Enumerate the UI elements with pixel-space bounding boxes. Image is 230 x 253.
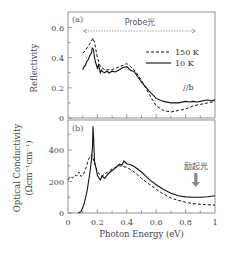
down-arrow-icon [192,173,200,187]
panel-a-ytick-0.6: 0.6 [51,24,64,33]
panel-a-ytick-0.4: 0.4 [51,54,64,63]
probe-range-arrow [84,29,196,33]
panel-b-y-ticks [68,134,72,213]
xtick-1: 1 [212,218,217,227]
excitation-label: 励起光 [184,161,208,171]
xtick-0.8: 0.8 [179,218,192,227]
legend-150k: 150 K [175,48,200,57]
panel-a-ytick-0: 0 [59,114,64,123]
polarization-label: //b [183,83,194,92]
probe-label: Probe光 [125,17,156,27]
xtick-0.2: 0.2 [91,218,104,227]
panel-b-x-ticks [83,209,201,213]
panel-a-ytick-0.2: 0.2 [51,84,64,93]
panel-a: 0 0.2 0.4 0.6 Reflectivity (a) Probe光 15… [29,12,215,123]
panel-b-ytick-400: 400 [49,146,64,155]
panel-b: 0 200 400 0 0.2 0.4 0.6 0.8 1 Photon Ene… [12,120,218,239]
panel-a-x-ticks [83,114,201,118]
xtick-0.4: 0.4 [120,218,133,227]
xtick-0.6: 0.6 [150,218,163,227]
legend: 150 K 10 K [146,48,200,68]
panel-a-y-ticks [68,27,72,118]
panel-b-ytick-200: 200 [49,178,64,187]
panel-b-label: (b) [72,124,83,133]
figure: 0 0.2 0.4 0.6 Reflectivity (a) Probe光 15… [0,0,230,253]
x-axis-title: Photon Energy (eV) [99,229,184,239]
panel-b-y-axis-units: (Ωcm⁻¹cm⁻¹) [24,140,34,195]
panel-b-y-axis-title: Optical Conductivity [12,124,22,213]
panel-a-label: (a) [72,15,83,24]
panel-b-ytick-0: 0 [59,209,64,218]
xtick-0: 0 [65,218,70,227]
legend-10k: 10 K [175,59,195,68]
panel-a-y-axis-title: Reflectivity [29,43,39,92]
